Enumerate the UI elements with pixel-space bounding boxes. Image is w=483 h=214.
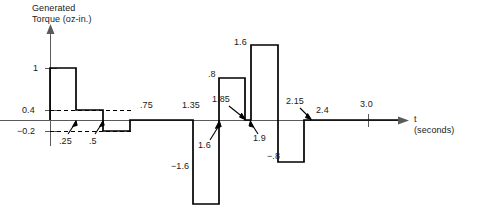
y-axis-title-line1: Generated bbox=[32, 3, 92, 14]
t-label-3-0: 3.0 bbox=[360, 99, 373, 109]
t-label-0-5: .5 bbox=[89, 136, 97, 146]
y-axis-title-line2: Torque (oz-in.) bbox=[32, 14, 92, 25]
torque-waveform-figure: Generated Torque (oz-in.) 1 0.4 −0.2 .25… bbox=[0, 0, 483, 214]
y-axis-title: Generated Torque (oz-in.) bbox=[32, 3, 92, 25]
value-label-neg-1-6: −1.6 bbox=[171, 161, 189, 171]
t-label-1-6: 1.6 bbox=[198, 140, 211, 150]
value-label-1-6: 1.6 bbox=[234, 37, 247, 47]
value-label-neg-0-8: −.8 bbox=[267, 151, 280, 161]
y-label-1: 1 bbox=[33, 63, 38, 73]
callout-arrows bbox=[68, 106, 311, 140]
x-axis-title-line1: t bbox=[414, 114, 454, 125]
t-label-1-9: 1.9 bbox=[253, 133, 266, 143]
t-label-0-75: .75 bbox=[140, 100, 153, 110]
value-label-0-8: .8 bbox=[208, 69, 216, 79]
y-label-neg-0-2: −0.2 bbox=[17, 126, 35, 136]
waveform-plot bbox=[0, 0, 483, 214]
x-axis-title-line2: (seconds) bbox=[414, 125, 454, 136]
t-label-2-15: 2.15 bbox=[286, 96, 304, 106]
t-label-2-4: 2.4 bbox=[316, 105, 329, 115]
x-axis-title: t (seconds) bbox=[414, 114, 454, 136]
t-label-0-25: .25 bbox=[59, 136, 72, 146]
t-label-1-35: 1.35 bbox=[182, 100, 200, 110]
y-label-0-4: 0.4 bbox=[22, 105, 35, 115]
t-label-1-85: 1.85 bbox=[212, 94, 230, 104]
